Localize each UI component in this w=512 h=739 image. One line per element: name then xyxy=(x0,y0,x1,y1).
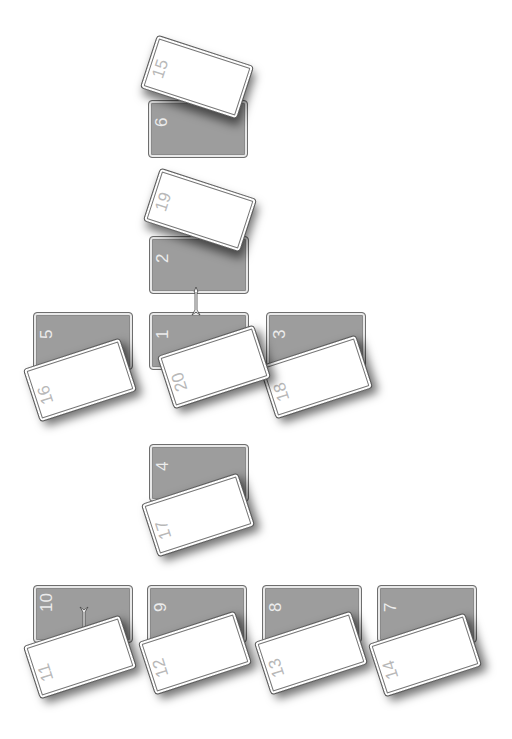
card-label: 9 xyxy=(152,603,169,612)
card-label: 7 xyxy=(382,603,399,612)
card-label: 11 xyxy=(35,662,57,684)
card-label: 1 xyxy=(154,330,171,339)
card-label: 6 xyxy=(153,118,170,127)
card-label: 18 xyxy=(270,380,292,403)
card-label: 20 xyxy=(168,370,190,393)
card-label: 14 xyxy=(379,658,401,681)
card-label: 16 xyxy=(34,383,56,406)
arrow-down-icon xyxy=(191,286,201,316)
card-label: 10 xyxy=(38,593,55,612)
card-label: 13 xyxy=(265,656,287,679)
card-label: 15 xyxy=(149,57,171,80)
game-board: 6 2 5 1 3 4 10 9 8 7 15 19 16 18 xyxy=(0,0,512,739)
card-label: 2 xyxy=(154,254,171,263)
card-label: 8 xyxy=(267,603,284,612)
card-label: 3 xyxy=(271,330,288,339)
card-label: 19 xyxy=(152,190,174,213)
card-label: 5 xyxy=(38,330,55,339)
card-label: 4 xyxy=(154,462,171,471)
card-label: 17 xyxy=(152,518,174,541)
card-label: 12 xyxy=(149,656,171,679)
